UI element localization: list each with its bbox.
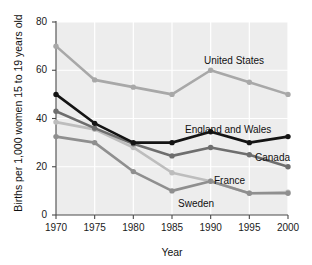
y-tick-label: 40 <box>23 114 47 124</box>
data-point <box>208 179 213 184</box>
data-point <box>53 92 58 97</box>
series-label-canada: Canada <box>255 152 290 163</box>
x-tick-label: 1990 <box>193 223 229 233</box>
y-tick-label: 80 <box>23 17 47 27</box>
data-point <box>169 170 174 175</box>
series-label-united-states: United States <box>204 55 264 66</box>
x-tick-label: 1980 <box>115 223 151 233</box>
y-tick-label: 0 <box>23 210 47 220</box>
data-point <box>169 140 174 145</box>
data-point <box>92 140 97 145</box>
data-point <box>169 188 174 193</box>
line-chart: Births per 1,000 women 15 to 19 years ol… <box>0 0 312 265</box>
data-point <box>208 68 213 73</box>
x-axis-title: Year <box>56 246 288 258</box>
data-point <box>208 145 213 150</box>
data-point <box>285 191 290 196</box>
series-label-france: France <box>214 175 245 186</box>
data-point <box>92 121 97 126</box>
data-point <box>285 164 290 169</box>
data-point <box>131 84 136 89</box>
data-point <box>247 152 252 157</box>
data-point <box>53 43 58 48</box>
x-tick-label: 1995 <box>231 223 267 233</box>
data-point <box>131 169 136 174</box>
y-tick-label: 60 <box>23 65 47 75</box>
data-point <box>92 125 97 130</box>
data-point <box>169 153 174 158</box>
x-tick-label: 1975 <box>77 223 113 233</box>
data-point <box>285 134 290 139</box>
data-point <box>53 134 58 139</box>
x-tick-label: 2000 <box>270 223 306 233</box>
data-point <box>53 119 58 124</box>
data-point <box>247 80 252 85</box>
data-point <box>131 140 136 145</box>
data-point <box>92 77 97 82</box>
data-point <box>247 140 252 145</box>
data-point <box>285 92 290 97</box>
data-point <box>169 92 174 97</box>
x-tick-label: 1970 <box>38 223 74 233</box>
data-point <box>53 109 58 114</box>
data-point <box>247 191 252 196</box>
x-tick-label: 1985 <box>154 223 190 233</box>
series-label-england-and-wales: England and Wales <box>185 124 271 135</box>
series-label-sweden: Sweden <box>178 198 214 209</box>
y-tick-label: 20 <box>23 162 47 172</box>
